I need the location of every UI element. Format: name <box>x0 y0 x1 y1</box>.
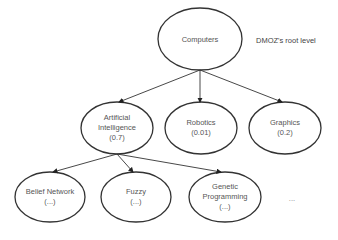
label-ai: Artificial Intelligence (0.7) <box>98 113 136 143</box>
label-genetic: Genetic Programming (...) <box>202 182 247 212</box>
label-belief: Belief Network (...) <box>26 187 74 207</box>
label-fuzzy: Fuzzy (...) <box>126 187 146 207</box>
edge-ai-belief <box>53 154 117 172</box>
label-computers: Computers <box>182 35 219 45</box>
edge-root-graphics <box>200 70 282 102</box>
edge-ai-genetic <box>117 154 221 172</box>
label-robotics: Robotics (0.01) <box>186 118 215 138</box>
edge-root-ai <box>119 70 200 102</box>
label-graphics: Graphics (0.2) <box>270 118 300 138</box>
label-more: ... <box>289 194 295 204</box>
label-root-note: DMOZ's root level <box>256 36 316 45</box>
